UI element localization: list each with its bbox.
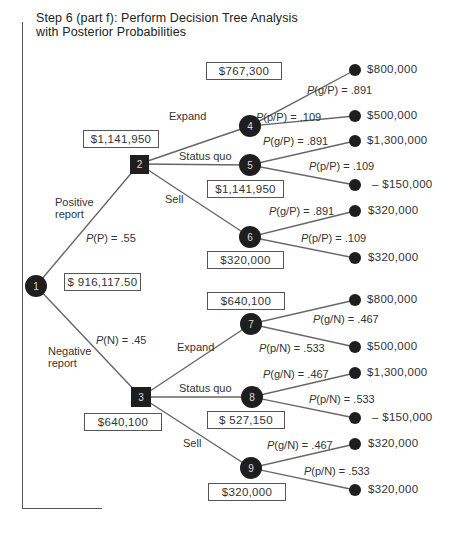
payoff-12: $320,000	[368, 483, 418, 495]
prob-node6-poor: P(p/P) = .109	[301, 232, 366, 244]
payoff-11: $320,000	[368, 437, 418, 449]
svg-text:9: 9	[248, 463, 254, 474]
node-8: 8	[241, 386, 263, 408]
node-5: 5	[239, 154, 261, 176]
terminal-dot-icon	[349, 252, 361, 264]
node-6-value: $320,000	[207, 251, 284, 269]
negative-report-prob: P(N) = .45	[96, 334, 146, 346]
prob-node7-good: P(g/N) = .467	[313, 313, 379, 325]
payoff-4: – $150,000	[372, 178, 433, 190]
prob-node8-good: P(g/N) = .467	[263, 368, 329, 380]
expand-label-negative: Expand	[177, 341, 214, 354]
node-1: 1	[25, 275, 47, 297]
branch-sell-n	[141, 397, 251, 468]
terminal-dot-icon	[349, 294, 361, 306]
terminal-dot-icon	[349, 179, 361, 191]
payoff-8: $500,000	[367, 340, 417, 352]
sell-label-positive: Sell	[165, 193, 183, 206]
terminal-dots	[349, 64, 361, 496]
payoff-9: $1,300,000	[367, 366, 428, 378]
terminal-dot-icon	[349, 205, 361, 217]
terminal-dot-icon	[349, 438, 361, 450]
terminal-dot-icon	[349, 412, 361, 424]
branch-sell-p	[139, 164, 250, 237]
node-2-value: $1,141,950	[83, 130, 159, 148]
node-9-value: $320,000	[208, 483, 286, 501]
terminal-dot-icon	[349, 484, 361, 496]
terminal-dot-icon	[349, 64, 361, 76]
status-quo-label-positive: Status quo	[179, 150, 232, 163]
svg-text:2: 2	[137, 159, 143, 170]
prob-node9-poor: P(p/N) = .533	[304, 465, 370, 477]
positive-report-prob: P(P) = .55	[86, 232, 136, 244]
node-3-value: $640,100	[84, 413, 162, 431]
node-7: 7	[240, 313, 262, 335]
prob-node7-poor: P(p/N) = .533	[259, 342, 325, 354]
svg-text:3: 3	[138, 392, 144, 403]
branch-status-quo-p	[139, 164, 250, 165]
status-quo-label-negative: Status quo	[179, 382, 232, 395]
payoff-3: $1,300,000	[367, 134, 428, 146]
node-8-value: $ 527,150	[207, 411, 285, 429]
payoff-2: $500,000	[367, 109, 417, 121]
positive-report-label-line2: report	[55, 208, 84, 221]
svg-text:6: 6	[247, 232, 253, 243]
node-7-value: $640,100	[207, 292, 285, 310]
prob-node6-good: P(g/P) = .891	[269, 205, 334, 217]
node-5-value: $1,141,950	[207, 180, 284, 198]
terminal-dot-icon	[349, 110, 361, 122]
payoff-7: $800,000	[367, 293, 417, 305]
expand-label-positive: Expand	[169, 110, 206, 123]
svg-text:5: 5	[247, 160, 253, 171]
terminal-dot-icon	[349, 367, 361, 379]
prob-node8-poor: P(p/N) = .533	[309, 393, 375, 405]
node-4-value: $767,300	[206, 62, 282, 80]
node-6: 6	[239, 226, 261, 248]
prob-node5-poor: P(p/P) = .109	[309, 160, 374, 172]
prob-node4-poor: P(p/P) = .109	[256, 111, 321, 123]
node-3: 3	[131, 387, 151, 407]
svg-text:4: 4	[247, 121, 253, 132]
node-2: 2	[130, 155, 149, 174]
payoff-10: – $150,000	[372, 411, 433, 423]
svg-text:7: 7	[248, 319, 254, 330]
prob-node9-good: P(g/N) = .467	[267, 439, 333, 451]
negative-report-label-line2: report	[48, 357, 77, 370]
branch-positive-report	[36, 164, 139, 286]
prob-node5-good: P(g/P) = .891	[263, 135, 328, 147]
node-1-value: $ 916,117.50	[64, 273, 141, 291]
payoff-6: $320,000	[368, 251, 418, 263]
terminal-dot-icon	[349, 135, 361, 147]
payoff-5: $320,000	[368, 204, 418, 216]
sell-label-negative: Sell	[183, 437, 201, 450]
svg-text:8: 8	[249, 392, 255, 403]
terminal-dot-icon	[349, 341, 361, 353]
node-9: 9	[240, 457, 262, 479]
payoff-1: $800,000	[367, 63, 417, 75]
prob-node4-good: P(g/P) = .891	[307, 84, 372, 96]
svg-text:1: 1	[33, 281, 39, 292]
